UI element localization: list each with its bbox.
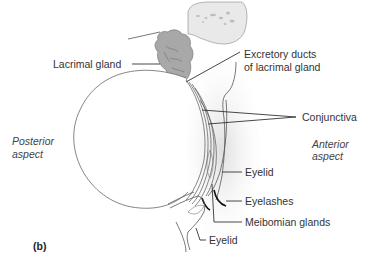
soft-tissue-shading [184, 60, 260, 240]
eye-anatomy-diagram: Lacrimal gland Excretory ducts of lacrim… [0, 0, 369, 262]
eyeball-outline [74, 70, 188, 208]
label-lacrimal-gland: Lacrimal gland [53, 58, 121, 70]
label-posterior-2: aspect [12, 148, 44, 160]
lower-lid-skin [176, 222, 186, 252]
label-excretory-ducts-1: Excretory ducts [244, 48, 316, 60]
label-conjunctiva: Conjunctiva [302, 111, 357, 123]
label-anterior-1: Anterior [311, 138, 349, 150]
orbital-bone [188, 2, 247, 44]
label-posterior-1: Posterior [12, 135, 55, 147]
label-eyelid-lower: Eyelid [209, 234, 238, 246]
label-meibomian-glands: Meibomian glands [245, 216, 330, 228]
label-anterior-2: aspect [312, 150, 344, 162]
label-eyelashes: Eyelashes [245, 195, 293, 207]
label-eyelid-upper: Eyelid [245, 166, 274, 178]
panel-label: (b) [33, 240, 46, 252]
bone-lower-edge [128, 32, 160, 39]
label-excretory-ducts-2: of lacrimal gland [244, 61, 321, 73]
